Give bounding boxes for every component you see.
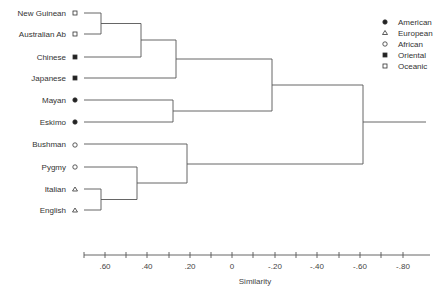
leaf-label-mayan: Mayan: [42, 96, 66, 105]
x-tick-label: .40: [141, 262, 153, 271]
leaf-label-new-guinean: New Guinean: [18, 9, 66, 18]
leaf-label-pygmy: Pygmy: [42, 163, 66, 172]
open-square-icon: [73, 32, 77, 36]
legend-label-american: American: [398, 18, 432, 27]
legend: American European African Oriental Ocean…: [383, 18, 433, 71]
filled-circle-icon: [383, 20, 387, 24]
legend-label-european: European: [398, 29, 433, 38]
filled-square-icon: [383, 53, 387, 57]
x-tick-label: 0: [230, 262, 235, 271]
x-tick-label: .60: [99, 262, 111, 271]
x-axis: .60 .40 .20 0 -.20 -.40 -.60 -.80 Simila…: [84, 252, 430, 286]
legend-label-african: African: [398, 40, 423, 49]
open-triangle-icon: [73, 187, 78, 191]
leaf-label-bushman: Bushman: [32, 140, 66, 149]
x-tick-label: -.60: [353, 262, 367, 271]
open-square-icon: [383, 64, 387, 68]
leaf-labels: New Guinean Australian Ab Chinese Japane…: [18, 9, 67, 215]
open-square-icon: [73, 11, 77, 15]
leaf-label-english: English: [40, 206, 66, 215]
x-axis-title: Similarity: [239, 277, 271, 286]
open-circle-icon: [73, 165, 77, 169]
x-tick-label: -.40: [310, 262, 324, 271]
x-tick-label: -.80: [396, 262, 410, 271]
open-triangle-icon: [73, 208, 78, 212]
leaf-label-italian: Italian: [45, 185, 66, 194]
open-circle-icon: [73, 143, 77, 147]
legend-label-oceanic: Oceanic: [398, 62, 427, 71]
leaf-label-australian-ab: Australian Ab: [19, 30, 67, 39]
open-circle-icon: [383, 42, 387, 46]
dendrogram-chart: New Guinean Australian Ab Chinese Japane…: [0, 0, 436, 293]
open-triangle-icon: [383, 31, 388, 35]
leaf-label-japanese: Japanese: [31, 74, 66, 83]
filled-circle-icon: [73, 98, 77, 102]
x-tick-label: .20: [184, 262, 196, 271]
filled-circle-icon: [73, 120, 77, 124]
leaf-label-eskimo: Eskimo: [40, 118, 67, 127]
x-tick-label: -.20: [268, 262, 282, 271]
legend-label-oriental: Oriental: [398, 51, 426, 60]
filled-square-icon: [73, 76, 77, 80]
filled-square-icon: [73, 55, 77, 59]
leaf-markers: [73, 11, 78, 212]
leaf-label-chinese: Chinese: [37, 53, 67, 62]
dendrogram-branches: [84, 13, 426, 210]
